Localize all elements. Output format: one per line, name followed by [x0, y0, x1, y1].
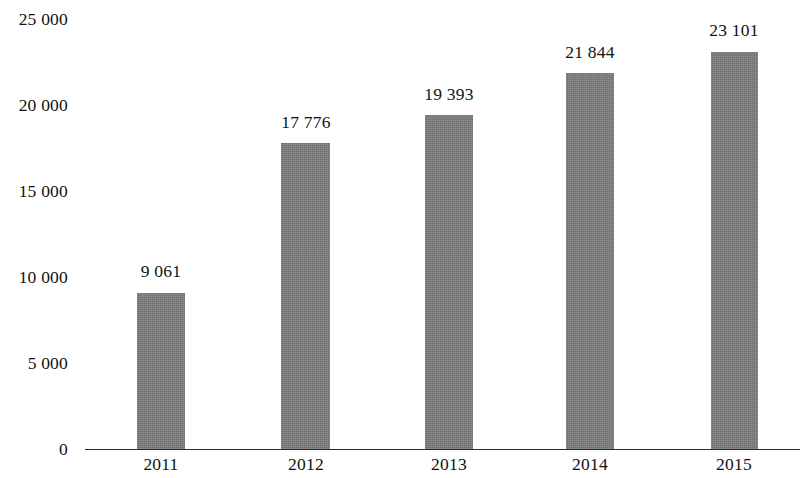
y-axis-tick-label-15000: 15 000: [19, 183, 68, 201]
bar-2011[interactable]: [137, 293, 185, 449]
y-axis-tick-label-5000: 5 000: [28, 355, 68, 373]
x-axis-line: [85, 449, 800, 450]
y-axis-tick-label-10000: 10 000: [19, 269, 68, 287]
y-axis-tick-label-0: 0: [59, 441, 68, 459]
x-axis-tick-label-2012: 2012: [256, 456, 356, 474]
bar-value-label-2013: 19 393: [399, 86, 499, 104]
x-axis-tick-label-2014: 2014: [540, 456, 640, 474]
plot-area: [85, 0, 800, 478]
bar-chart: 25 000 20 000 15 000 10 000 5 000 0 9 06…: [0, 0, 802, 478]
bar-value-label-2014: 21 844: [540, 44, 640, 62]
bar-2012[interactable]: [281, 143, 330, 449]
x-axis-tick-label-2015: 2015: [684, 456, 784, 474]
y-axis-tick-label-25000: 25 000: [19, 11, 68, 29]
x-axis-tick-label-2013: 2013: [399, 456, 499, 474]
bar-value-label-2015: 23 101: [684, 22, 784, 40]
bar-2014[interactable]: [566, 73, 614, 449]
y-axis-tick-label-20000: 20 000: [19, 97, 68, 115]
bar-value-label-2012: 17 776: [256, 114, 356, 132]
x-axis-tick-label-2011: 2011: [111, 456, 211, 474]
bar-2015[interactable]: [711, 52, 758, 449]
bar-2013[interactable]: [425, 115, 473, 449]
bar-value-label-2011: 9 061: [111, 263, 211, 281]
